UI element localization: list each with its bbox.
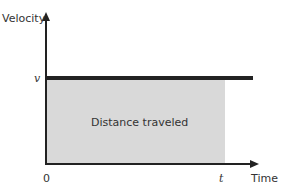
y-tick-v: v (34, 72, 40, 85)
x-axis-arrow-icon (250, 160, 259, 168)
y-axis-label: Velocity (2, 12, 45, 25)
x-origin-label: 0 (43, 172, 50, 185)
area-label: Distance traveled (91, 116, 188, 129)
x-axis-label: Time (251, 172, 278, 185)
x-tick-t: t (219, 172, 223, 185)
velocity-time-graph (0, 0, 287, 195)
